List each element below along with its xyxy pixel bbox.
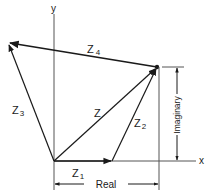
y-axis-label: y xyxy=(51,3,56,14)
label-z3: Z3 xyxy=(12,104,25,118)
phasor-diagram: y x Imaginary Real Z4 Z3 Z Z2 Z1 xyxy=(0,0,211,196)
label-z: Z xyxy=(94,107,101,119)
label-z1: Z1 xyxy=(72,167,85,181)
vector-z4 xyxy=(10,43,157,67)
vector-z xyxy=(54,69,155,161)
label-z2: Z2 xyxy=(134,117,147,131)
real-label: Real xyxy=(96,179,117,190)
x-axis-label: x xyxy=(199,155,204,166)
label-z4: Z4 xyxy=(87,43,101,57)
vector-z3 xyxy=(9,45,54,161)
vector-z2 xyxy=(112,69,156,161)
imaginary-label: Imaginary xyxy=(172,96,182,134)
